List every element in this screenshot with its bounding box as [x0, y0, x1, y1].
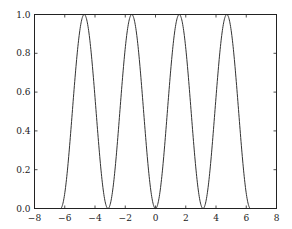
y-tick-label: 0.4 [16, 126, 31, 136]
y-tick-label: 1.0 [16, 10, 31, 20]
x-tick-label: 8 [274, 213, 280, 223]
x-tick-label: −6 [58, 213, 72, 223]
y-tick-label: 0.2 [16, 165, 30, 175]
x-tick-label: −4 [88, 213, 102, 223]
y-axis-ticks: 0.00.20.40.60.81.0 [16, 10, 276, 214]
y-tick-label: 0.0 [16, 204, 31, 214]
x-tick-label: 4 [213, 213, 219, 223]
y-tick-label: 0.8 [16, 48, 31, 58]
x-tick-label: 6 [243, 213, 249, 223]
line-chart: −8−6−4−202468 0.00.20.40.60.81.0 [0, 0, 292, 229]
x-tick-label: 2 [183, 213, 189, 223]
y-tick-label: 0.6 [16, 87, 31, 97]
x-axis-ticks: −8−6−4−202468 [28, 15, 280, 223]
x-tick-label: −2 [119, 213, 132, 223]
axes-frame [35, 15, 277, 209]
x-tick-label: −8 [28, 213, 42, 223]
data-series-line [60, 15, 250, 209]
x-tick-label: 0 [153, 213, 159, 223]
